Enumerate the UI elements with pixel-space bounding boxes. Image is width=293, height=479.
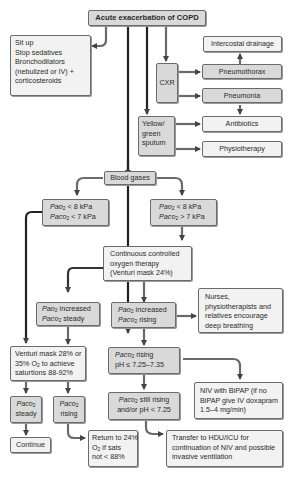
node-pao2-increased-paco2-steady: Pao2 increased Paco2 steady <box>36 302 100 326</box>
text-line: Sit up <box>15 38 86 48</box>
node-return-24: Return to 24% O2 if sats not < 88% <box>88 430 138 467</box>
node-pneumonia: Pneumonia <box>202 88 282 103</box>
text-line: Nurses, <box>205 292 276 302</box>
text: Paco <box>159 212 175 221</box>
text-line: oxygen therapy <box>110 259 185 269</box>
node-venturi-mask: Venturi mask 28% or 35% O2 to achieve sa… <box>10 346 86 381</box>
node-text: Blood gases <box>110 173 150 183</box>
text-line: NIV with BiPAP (if no <box>200 386 277 396</box>
text-line: continuation of NIV and possible <box>172 443 277 453</box>
text: < 7 kPa <box>69 212 96 221</box>
text-line: physiotherapists and <box>205 302 276 312</box>
text: still rising <box>138 395 170 404</box>
text-line: steady <box>11 409 41 419</box>
text-line: Yellow/ <box>142 119 171 129</box>
text: Paco <box>119 395 135 404</box>
node-encourage-breathing: Nurses, physiotherapists and relatives e… <box>198 288 283 333</box>
sub: 2 <box>33 402 36 408</box>
text: Paco <box>59 399 75 408</box>
node-oxygen-therapy: Continuous controlled oxygen therapy (Ve… <box>103 246 192 281</box>
text-line: deep breathing <box>205 321 276 331</box>
node-transfer-icu: Transfer to HDU/ICU for continuation of … <box>166 430 283 467</box>
text: 35% O <box>15 359 37 368</box>
text: if sats <box>100 443 121 452</box>
text: Pao <box>159 202 172 211</box>
text-line: corticosteroids <box>15 76 86 86</box>
node-paco2-still-rising: Paco2 still rising and/or pH < 7.25 <box>108 392 180 420</box>
text: Pao <box>42 304 55 313</box>
text: Paco <box>42 314 58 323</box>
node-text: Continue <box>16 440 45 450</box>
node-sputum: Yellow/ green sputum <box>138 116 175 156</box>
text: increased <box>58 304 91 313</box>
text: < 8 kPa <box>175 202 202 211</box>
node-right-gas: Pao2 < 8 kPa Paco2 > 7 kPa <box>150 199 217 226</box>
node-blood-gases: Blood gases <box>104 171 156 185</box>
node-physiotherapy: Physiotherapy <box>202 141 282 157</box>
node-pao2-increased-paco2-rising: Pao2 increased Paco2 rising <box>111 302 176 328</box>
text-line: not < 88% <box>92 452 134 462</box>
node-acute-exacerbation: Acute exacerbation of COPD <box>88 10 206 26</box>
node-pneumothorax: Pneumothorax <box>202 64 282 79</box>
text-line: green <box>142 129 171 139</box>
node-left-gas: Pao2 < 8 kPa Paco2 < 7 kPa <box>42 199 109 226</box>
text: < 8 kPa <box>66 202 93 211</box>
text-line: Return to 24% <box>92 433 134 443</box>
node-cxr: CXR <box>156 63 178 103</box>
text-line: sputum <box>142 138 171 148</box>
text: Pao <box>118 305 131 314</box>
text: > 7 kPa <box>178 212 205 221</box>
text-line: relatives encourage <box>205 311 276 321</box>
text: Paco <box>50 212 66 221</box>
node-niv-bipap: NIV with BiPAP (if no BiPAP give IV doxa… <box>194 382 283 419</box>
text: Pao <box>50 202 63 211</box>
node-cxr-text: CXR <box>159 78 174 88</box>
text: increased <box>134 305 167 314</box>
text-line: Venturi mask 28% or <box>15 349 81 359</box>
node-title-text: Acute exacerbation of COPD <box>95 13 198 23</box>
node-paco2-rising: Paco2 rising <box>53 396 85 423</box>
text: Paco <box>115 350 131 359</box>
node-paco2-steady: Paco2 steady <box>10 396 42 423</box>
text: rising <box>137 315 156 324</box>
node-paco2-rising-ph: Paco2 rising pH ≤ 7.25–7.35 <box>108 347 180 374</box>
text: Paco <box>118 315 134 324</box>
text: steady <box>61 314 84 323</box>
text-line: and/or pH < 7.25 <box>114 405 174 415</box>
text-line: rising <box>54 409 84 419</box>
node-text: Physiotherapy <box>219 144 265 154</box>
node-text: Pneumonia <box>224 91 260 101</box>
node-text: Intercostal drainage <box>211 39 274 49</box>
sub: 2 <box>76 402 79 408</box>
text-line: pH ≤ 7.25–7.35 <box>115 360 173 370</box>
text-line: invasive ventilation <box>172 452 277 462</box>
node-text: Pneumothorax <box>219 67 266 77</box>
node-initial-measures: Sit up Stop sedatives Bronchodilators (n… <box>10 35 91 96</box>
text-line: BiPAP give IV doxapram <box>200 396 277 406</box>
text-line: Stop sedatives <box>15 48 86 58</box>
node-text: Antibiotics <box>226 119 259 129</box>
text-line: saturtions 88-92% <box>15 368 81 378</box>
text-line: (Venturi mask 24%) <box>110 268 185 278</box>
text-line: Transfer to HDU/ICU for <box>172 433 277 443</box>
text: rising <box>134 350 153 359</box>
text-line: 1.5–4 mg/min) <box>200 405 277 415</box>
node-intercostal-drainage: Intercostal drainage <box>203 36 282 52</box>
text-line: Continuous controlled <box>110 249 185 259</box>
text-line: Bronchodilators <box>15 57 86 67</box>
text-line: (nebulized or IV) + <box>15 67 86 77</box>
node-continue: Continue <box>10 437 51 453</box>
text: to achieve <box>40 359 75 368</box>
text: Paco <box>16 399 32 408</box>
node-antibiotics: Antibiotics <box>202 116 282 132</box>
